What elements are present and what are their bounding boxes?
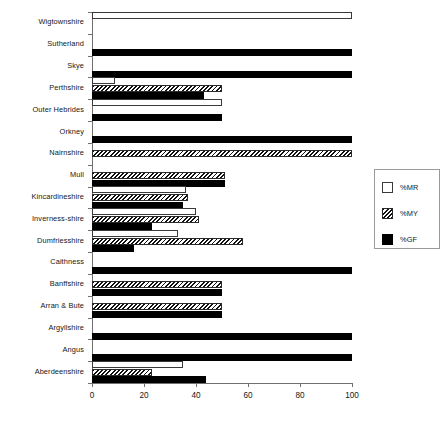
bar [92, 99, 222, 106]
bar [92, 281, 222, 288]
value-tick-label: 40 [191, 391, 200, 400]
category-label: Banffshire [50, 279, 84, 288]
bar-chart: WigtownshireSutherlandSkyePerthshireOute… [0, 0, 445, 436]
bar [92, 303, 222, 310]
category-label: Inverness-shire [32, 214, 84, 223]
category-label: Wigtownshire [38, 17, 84, 26]
legend-item: %MY [382, 208, 418, 219]
value-tick-label: 100 [345, 391, 359, 400]
category-label: Caithness [50, 257, 84, 266]
category-label: Arran & Bute [40, 301, 84, 310]
category-label: Nairnshire [49, 148, 84, 157]
plot-area: 020406080100 [92, 12, 352, 383]
bar [92, 12, 352, 19]
value-tick [196, 383, 197, 387]
bar [92, 289, 222, 296]
bar [92, 71, 352, 78]
chart-legend: %MR%MY%GF [374, 169, 440, 249]
category-label: Mull [70, 170, 84, 179]
value-tick-label: 0 [90, 391, 95, 400]
bar [92, 136, 352, 143]
bar [92, 245, 134, 252]
bar [92, 311, 222, 318]
bar [92, 172, 225, 179]
value-tick-label: 60 [243, 391, 252, 400]
value-tick [352, 383, 353, 387]
bar [92, 194, 188, 201]
category-label: Skye [67, 61, 84, 70]
category-label: Outer Hebrides [32, 105, 84, 114]
legend-item: %MR [382, 182, 418, 193]
bar [92, 216, 199, 223]
bar [92, 85, 222, 92]
category-label: Aberdeenshire [35, 367, 84, 376]
category-label: Orkney [60, 127, 84, 136]
bar [92, 114, 222, 121]
bar [92, 238, 243, 245]
legend-label: %MY [400, 209, 418, 218]
value-tick [144, 383, 145, 387]
category-label: Dumfriesshire [37, 236, 84, 245]
bar [92, 186, 186, 193]
bar [92, 369, 152, 376]
bar [92, 77, 115, 84]
bar [92, 376, 206, 383]
category-tick [88, 34, 92, 35]
category-label: Perthshire [49, 83, 84, 92]
value-tick-label: 80 [295, 391, 304, 400]
bar [92, 361, 183, 368]
bar [92, 150, 352, 157]
hatched-square-icon [382, 208, 393, 219]
legend-item: %GF [382, 234, 417, 245]
category-label: Kincardineshire [32, 192, 84, 201]
category-label: Angus [63, 345, 84, 354]
category-tick [88, 165, 92, 166]
bar [92, 333, 352, 340]
value-tick [248, 383, 249, 387]
bar [92, 230, 178, 237]
white-square-icon [382, 182, 393, 193]
legend-label: %MR [400, 183, 418, 192]
bar [92, 208, 196, 215]
category-label: Sutherland [47, 39, 84, 48]
value-tick [92, 383, 93, 387]
category-label: Argyllshire [48, 323, 84, 332]
category-axis-labels: WigtownshireSutherlandSkyePerthshireOute… [0, 0, 88, 380]
bar [92, 49, 352, 56]
value-tick [300, 383, 301, 387]
value-tick-label: 20 [139, 391, 148, 400]
black-square-icon [382, 234, 393, 245]
legend-label: %GF [400, 235, 417, 244]
bar [92, 267, 352, 274]
